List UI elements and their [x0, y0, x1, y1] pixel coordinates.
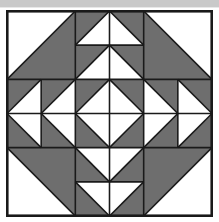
quilt-block-svg [7, 11, 212, 216]
figure-root [0, 0, 219, 222]
quilt-block-frame [6, 10, 213, 217]
top-margin-strip-edge [0, 7, 219, 8]
top-margin-strip [0, 0, 219, 7]
quilt-block-canvas [7, 11, 212, 216]
